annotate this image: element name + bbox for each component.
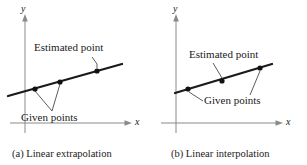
leader-line-given-point-left bbox=[189, 92, 203, 101]
y-axis-label: y bbox=[21, 4, 25, 14]
panel-linear-interpolation: y x Estimated point Given points (b) Lin… bbox=[153, 0, 306, 165]
annotation-given-points: Given points bbox=[204, 95, 261, 106]
x-axis-label: x bbox=[135, 117, 139, 127]
leader-line-estimated-point bbox=[92, 57, 97, 68]
annotation-estimated-point: Estimated point bbox=[189, 49, 258, 60]
y-axis-label: y bbox=[173, 4, 177, 14]
x-axis-arrowhead bbox=[276, 120, 284, 126]
data-point-given-2 bbox=[257, 65, 262, 70]
panel-caption-b: (b) Linear interpolation bbox=[171, 149, 270, 160]
x-axis-arrowhead bbox=[125, 120, 133, 126]
panel-caption-a: (a) Linear extrapolation bbox=[12, 149, 112, 160]
leader-line-given-point-right bbox=[250, 71, 260, 95]
linear-extrapolation-interpolation-figure: y x Estimated point Given points (a) Lin… bbox=[0, 0, 307, 165]
y-axis-arrowhead bbox=[173, 14, 179, 22]
leader-line-estimated-point bbox=[213, 63, 222, 78]
data-point-estimated bbox=[94, 68, 99, 73]
panel-linear-extrapolation: y x Estimated point Given points (a) Lin… bbox=[0, 0, 153, 165]
data-point-given-1 bbox=[185, 86, 190, 91]
data-point-given-1 bbox=[32, 86, 37, 91]
data-point-estimated bbox=[219, 78, 224, 83]
annotation-given-points: Given points bbox=[21, 112, 78, 123]
y-axis-arrowhead bbox=[22, 14, 28, 22]
annotation-estimated-point: Estimated point bbox=[34, 42, 103, 53]
data-point-given-2 bbox=[57, 79, 62, 84]
plot-area-interpolation bbox=[153, 0, 306, 140]
x-axis-label: x bbox=[286, 117, 290, 127]
